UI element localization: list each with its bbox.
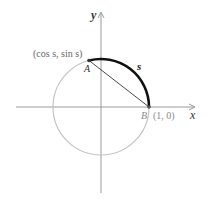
unit-circle-diagram: y x (cos s, sin s) A s B (1, 0) [0, 0, 209, 199]
point-a-label: A [83, 63, 91, 74]
point-b-label: B [141, 110, 147, 121]
point-a-coords-label: (cos s, sin s) [33, 48, 82, 60]
arc-s-label: s [136, 60, 141, 72]
y-axis-label: y [89, 8, 97, 22]
point-b-coords-label: (1, 0) [153, 110, 175, 122]
point-b [147, 105, 151, 109]
point-a [87, 59, 91, 63]
x-axis-label: x [189, 108, 196, 122]
